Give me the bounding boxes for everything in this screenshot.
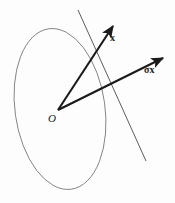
- vector-sigma-x-label: σx: [144, 65, 154, 75]
- origin-label: O: [48, 113, 56, 124]
- diagram-svg: [0, 0, 175, 203]
- sigma-operand: x: [149, 64, 154, 75]
- vector-x-label: x: [110, 33, 115, 43]
- figure-canvas: x σx O: [0, 0, 175, 203]
